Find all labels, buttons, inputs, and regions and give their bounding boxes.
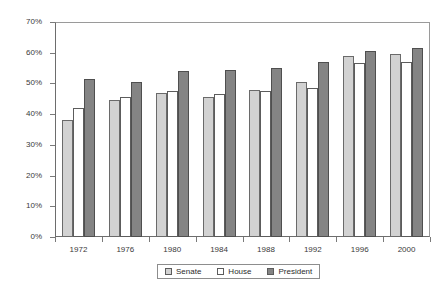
legend-swatch-house-icon <box>217 268 224 275</box>
y-tick-label: 20% <box>26 172 42 180</box>
x-tick-label: 1980 <box>149 245 196 254</box>
legend-item-senate[interactable]: Senate <box>165 267 201 276</box>
y-tick-label: 10% <box>26 202 42 210</box>
x-tick-mark <box>336 237 337 242</box>
bar-house-1992 <box>307 88 318 237</box>
y-tick-label: 60% <box>26 49 42 57</box>
y-tick-label: 70% <box>26 18 42 26</box>
y-tick-mark <box>50 176 55 177</box>
legend-label: President <box>278 267 312 276</box>
legend-item-president[interactable]: President <box>267 267 312 276</box>
bar-chart: 0%10%20%30%40%50%60%70% SenateHousePresi… <box>0 0 448 289</box>
legend-label: Senate <box>176 267 201 276</box>
y-tick-mark <box>50 206 55 207</box>
x-tick-label: 1996 <box>336 245 383 254</box>
y-axis: 0%10%20%30%40%50%60%70% <box>0 0 52 289</box>
y-tick-mark <box>50 114 55 115</box>
y-tick-mark <box>50 83 55 84</box>
y-tick-mark <box>50 145 55 146</box>
x-tick-mark <box>430 237 431 242</box>
bar-house-1972 <box>73 108 84 237</box>
legend-item-house[interactable]: House <box>217 267 251 276</box>
bar-house-2000 <box>401 62 412 237</box>
x-tick-mark <box>383 237 384 242</box>
bar-president-1972 <box>84 79 95 237</box>
x-tick-label: 2000 <box>383 245 430 254</box>
bars-layer <box>55 22 430 237</box>
legend-label: House <box>228 267 251 276</box>
bar-president-2000 <box>412 48 423 237</box>
bar-senate-1988 <box>249 90 260 237</box>
bar-senate-1996 <box>343 56 354 237</box>
bar-house-1980 <box>167 91 178 237</box>
bar-president-1984 <box>225 70 236 237</box>
y-tick-mark <box>50 22 55 23</box>
x-tick-mark <box>196 237 197 242</box>
y-tick-label: 40% <box>26 110 42 118</box>
bar-president-1996 <box>365 51 376 237</box>
bar-president-1988 <box>271 68 282 237</box>
x-tick-label: 1988 <box>243 245 290 254</box>
bar-senate-2000 <box>390 54 401 237</box>
x-tick-mark <box>243 237 244 242</box>
bar-senate-1992 <box>296 82 307 237</box>
bar-senate-1980 <box>156 93 167 237</box>
y-tick-label: 50% <box>26 79 42 87</box>
x-tick-mark <box>102 237 103 242</box>
bar-president-1980 <box>178 71 189 237</box>
bar-house-1996 <box>354 63 365 237</box>
bar-house-1976 <box>120 97 131 237</box>
bar-house-1984 <box>214 94 225 237</box>
legend-swatch-senate-icon <box>165 268 172 275</box>
bar-president-1992 <box>318 62 329 237</box>
chart-legend: SenateHousePresident <box>157 264 320 279</box>
x-tick-mark <box>289 237 290 242</box>
bar-senate-1976 <box>109 100 120 237</box>
x-tick-label: 1976 <box>102 245 149 254</box>
legend-swatch-president-icon <box>267 268 274 275</box>
x-tick-label: 1972 <box>55 245 102 254</box>
bar-senate-1984 <box>203 97 214 237</box>
y-tick-label: 0% <box>30 233 42 241</box>
y-tick-label: 30% <box>26 141 42 149</box>
bar-president-1976 <box>131 82 142 237</box>
x-tick-label: 1984 <box>196 245 243 254</box>
bar-senate-1972 <box>62 120 73 237</box>
x-tick-label: 1992 <box>289 245 336 254</box>
x-tick-mark <box>55 237 56 242</box>
bar-house-1988 <box>260 91 271 237</box>
x-tick-mark <box>149 237 150 242</box>
y-tick-mark <box>50 53 55 54</box>
